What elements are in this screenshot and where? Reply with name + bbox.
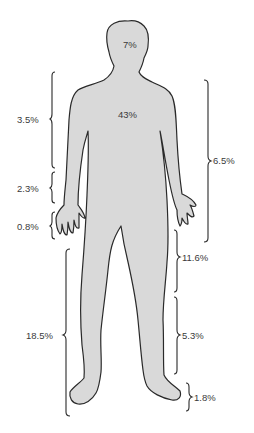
bracket-whole-leg [63,249,70,416]
bracket-hand [50,212,55,239]
bracket-lower-leg [174,297,180,374]
bracket-thigh [174,230,180,292]
label-trunk: 43% [118,110,137,120]
label-whole-arm: 6.5% [213,156,235,166]
bracket-whole-arm [204,80,211,242]
body-diagram [0,0,254,433]
bracket-foot [186,383,192,411]
label-upper-arm: 3.5% [17,115,39,125]
bracket-forearm [50,172,55,203]
label-lower-leg: 5.3% [182,331,204,341]
label-hand: 0.8% [17,222,39,232]
label-foot: 1.8% [194,393,216,403]
bracket-upper-arm [50,72,55,168]
body-silhouette [56,21,196,404]
label-whole-leg: 18.5% [26,331,53,341]
label-thigh: 11.6% [182,253,208,263]
label-head: 7% [123,40,137,50]
label-forearm: 2.3% [17,184,39,194]
